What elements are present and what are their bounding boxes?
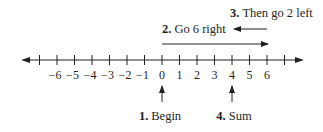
step-1: 1.Begin — [139, 86, 182, 123]
tick-label: −5 — [66, 68, 79, 82]
left-arrowhead-icon — [21, 57, 30, 63]
step-1-number: 1. — [139, 109, 148, 123]
step-4-label: 4.Sum — [216, 109, 252, 123]
axis: −6−5−4−3−2−10123456 — [21, 55, 304, 82]
step-3-label: 3.Then go 2 left — [230, 6, 313, 20]
tick-label: 4 — [229, 68, 235, 82]
step-1-label: 1.Begin — [139, 109, 182, 123]
step-4-number: 4. — [216, 109, 225, 123]
step-4-text: Sum — [229, 109, 252, 123]
number-line-diagram: −6−5−4−3−2−10123456 3.Then go 2 left 2.G… — [0, 0, 323, 132]
step-2-number: 2. — [162, 22, 171, 36]
tick-label: −2 — [119, 68, 132, 82]
tick-label: −6 — [49, 68, 62, 82]
step-2-text: Go 6 right — [174, 22, 226, 36]
right-arrowhead-icon — [295, 57, 304, 63]
step-2-label: 2.Go 6 right — [162, 22, 226, 36]
step-3-number: 3. — [230, 6, 239, 20]
tick-label: −1 — [136, 68, 149, 82]
tick-label: −3 — [101, 68, 114, 82]
tick-label: −4 — [84, 68, 97, 82]
tick-label: 5 — [247, 68, 253, 82]
step-1-text: Begin — [151, 109, 182, 123]
step-3: 3.Then go 2 left — [230, 6, 313, 29]
tick-label: 3 — [212, 68, 218, 82]
tick-label: 2 — [194, 68, 200, 82]
tick-label: 6 — [264, 68, 270, 82]
tick-label: 1 — [177, 68, 183, 82]
tick-labels: −6−5−4−3−2−10123456 — [49, 68, 270, 82]
step-3-text: Then go 2 left — [242, 6, 313, 20]
number-line-canvas: −6−5−4−3−2−10123456 3.Then go 2 left 2.G… — [0, 0, 323, 132]
step-4: 4.Sum — [216, 86, 252, 123]
tick-label: 0 — [159, 68, 165, 82]
step-2: 2.Go 6 right — [162, 22, 268, 44]
